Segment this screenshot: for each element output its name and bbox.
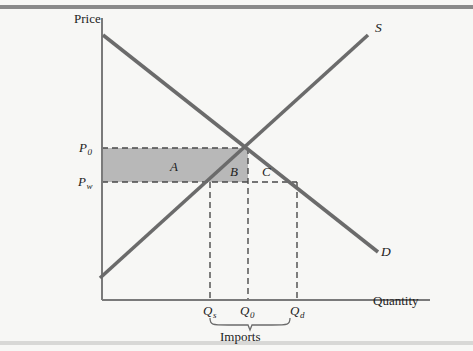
demand-curve	[103, 35, 378, 252]
region-label-c: C	[262, 165, 271, 178]
y-axis-label: Price	[74, 12, 101, 25]
x-axis-label: Quantity	[373, 294, 419, 307]
price-tick-pw-base: P	[78, 174, 86, 189]
price-tick-pw: Pw	[78, 175, 92, 188]
supply-curve-label: S	[375, 21, 382, 35]
figure-page: Price Quantity S D P0 Pw Qs Q0 Qd A B C …	[0, 0, 473, 351]
region-label-a: A	[170, 160, 178, 173]
quantity-tick-q0-base: Q	[240, 303, 249, 318]
quantity-tick-q0: Q0	[240, 304, 254, 317]
price-tick-p0-sub: 0	[87, 147, 92, 157]
price-tick-p0-base: P	[79, 140, 87, 155]
quantity-tick-qs: Qs	[203, 304, 216, 317]
quantity-tick-qd-base: Q	[290, 303, 299, 318]
price-tick-pw-sub: w	[86, 181, 92, 191]
quantity-tick-qd: Qd	[290, 304, 304, 317]
demand-curve-label: D	[381, 245, 391, 259]
imports-bracket-label: Imports	[220, 330, 260, 343]
region-label-b: B	[230, 165, 238, 178]
quantity-tick-qs-sub: s	[213, 310, 217, 320]
quantity-tick-qd-sub: d	[300, 310, 305, 320]
quantity-tick-qs-base: Q	[203, 303, 212, 318]
price-tick-p0: P0	[79, 141, 91, 154]
quantity-tick-q0-sub: 0	[250, 310, 255, 320]
